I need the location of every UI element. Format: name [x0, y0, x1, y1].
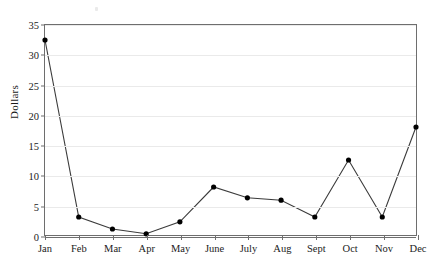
plot-area: 05101520253035JanFebMarAprMayJuneJulyAug…: [44, 24, 417, 236]
x-axis-tick-label: Apr: [139, 243, 155, 254]
x-axis-tick-label: Sept: [307, 243, 326, 254]
x-axis-tick-label: May: [171, 243, 190, 254]
x-axis-tick-mark: [45, 235, 46, 240]
data-point-marker: [211, 184, 216, 189]
x-axis-tick-label: Feb: [71, 243, 87, 254]
gridline: [45, 207, 416, 208]
x-axis-tick-mark: [350, 235, 351, 240]
x-axis-tick-mark: [418, 235, 419, 240]
y-axis-tick-mark: [41, 206, 45, 207]
line-chart: Dollars 05101520253035JanFebMarAprMayJun…: [0, 0, 439, 273]
series-polyline: [45, 40, 416, 234]
gridline: [45, 55, 416, 56]
y-axis-tick-mark: [41, 115, 45, 116]
x-axis-tick-mark: [79, 235, 80, 240]
data-point-marker: [245, 195, 250, 200]
data-point-marker: [177, 219, 182, 224]
x-axis-line: [45, 237, 416, 238]
data-point-marker: [312, 214, 317, 219]
y-axis-title: Dollars: [8, 72, 20, 132]
x-axis-tick-mark: [181, 235, 182, 240]
x-axis-tick-mark: [384, 235, 385, 240]
gridline: [45, 25, 416, 26]
x-axis-tick-mark: [215, 235, 216, 240]
x-axis-tick-label: Jan: [38, 243, 52, 254]
x-axis-tick-label: Aug: [273, 243, 291, 254]
x-axis-tick-mark: [316, 235, 317, 240]
data-point-marker: [346, 157, 351, 162]
gridline: [45, 146, 416, 147]
data-point-marker: [76, 214, 81, 219]
x-axis-tick-mark: [248, 235, 249, 240]
gridline: [45, 176, 416, 177]
data-point-marker: [279, 198, 284, 203]
x-axis-tick-mark: [282, 235, 283, 240]
data-series-line: [45, 25, 416, 235]
y-axis-tick-mark: [41, 55, 45, 56]
x-axis-tick-label: Dec: [410, 243, 427, 254]
gridline: [45, 86, 416, 87]
x-axis-tick-mark: [147, 235, 148, 240]
gridline: [45, 116, 416, 117]
page-speck-artifact: [95, 7, 98, 11]
data-point-marker: [42, 37, 47, 42]
x-axis-tick-label: June: [205, 243, 224, 254]
x-axis-tick-label: Mar: [104, 243, 122, 254]
data-point-marker: [110, 226, 115, 231]
x-axis-tick-label: Nov: [375, 243, 393, 254]
data-point-marker: [413, 124, 418, 129]
y-axis-tick-mark: [41, 176, 45, 177]
x-axis-tick-label: Oct: [343, 243, 358, 254]
y-axis-tick-mark: [41, 146, 45, 147]
data-point-marker: [380, 214, 385, 219]
y-axis-tick-mark: [41, 25, 45, 26]
x-axis-tick-mark: [113, 235, 114, 240]
y-axis-tick-mark: [41, 85, 45, 86]
x-axis-tick-label: July: [240, 243, 258, 254]
